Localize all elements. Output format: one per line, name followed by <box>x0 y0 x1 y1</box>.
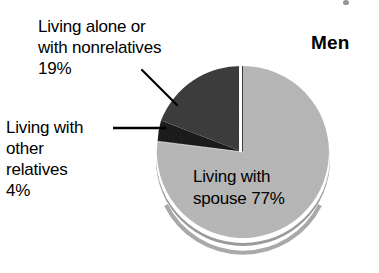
chart-heading: Men <box>311 32 350 53</box>
slice-label-living-with-spouse: Living with spouse 77% <box>193 166 285 210</box>
slice-label-line: Living with <box>6 117 83 138</box>
slice-label-line: with nonrelatives <box>38 37 161 58</box>
slice-label-living-with-other-relatives: Living with other relatives 4% <box>6 117 83 201</box>
slice-label-value: 4% <box>6 180 83 201</box>
pie-chart-figure: Living alone or with nonrelatives 19% Li… <box>0 0 379 273</box>
slice-label-line: Living with <box>193 166 285 188</box>
slice-label-value: 19% <box>38 58 161 79</box>
slice-label-line: other <box>6 138 83 159</box>
scan-artifact <box>343 0 349 5</box>
slice-label-line: relatives <box>6 159 83 180</box>
slice-label-line: Living alone or <box>38 16 161 37</box>
slice-label-value: spouse 77% <box>193 188 285 210</box>
slice-label-living-alone-or-nonrelatives: Living alone or with nonrelatives 19% <box>38 16 161 79</box>
